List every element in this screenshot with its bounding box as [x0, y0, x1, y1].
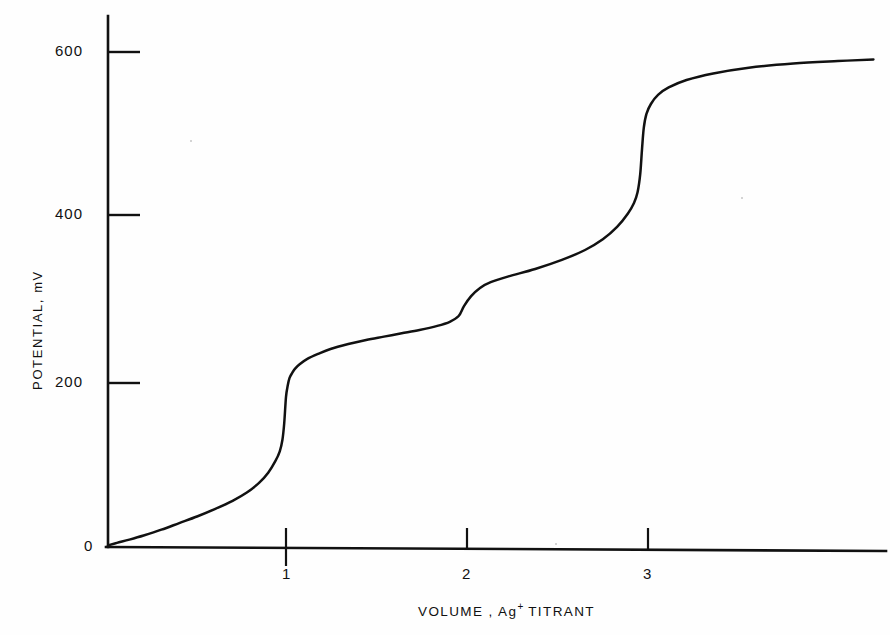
x-tick-label-3: 3	[643, 565, 652, 582]
titration-curve-line	[108, 59, 873, 545]
figure-canvas: POTENTIAL, mV 0 200 400 600 1 2 3 VOLUME…	[0, 0, 890, 635]
y-tick-label-400: 400	[55, 205, 83, 222]
y-tick-label-0: 0	[84, 537, 93, 554]
y-tick-label-600: 600	[55, 42, 83, 59]
x-tick-label-2: 2	[462, 565, 471, 582]
y-axis-title: POTENTIAL, mV	[30, 270, 45, 390]
x-axis-title-tail: TITRANT	[523, 604, 595, 619]
y-tick-label-200: 200	[55, 373, 83, 390]
x-axis-title-main: VOLUME , Ag	[418, 604, 517, 619]
titration-curve-plot: POTENTIAL, mV	[0, 0, 890, 635]
x-axis-title: VOLUME , Ag+ TITRANT	[418, 601, 595, 619]
x-tick-label-1: 1	[282, 565, 291, 582]
x-axis-line	[106, 547, 886, 551]
